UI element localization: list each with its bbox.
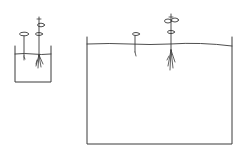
small-water-line — [15, 54, 51, 55]
large-container-walls — [87, 37, 232, 144]
large-container — [87, 14, 232, 144]
large-water-line — [87, 43, 232, 46]
small-container-walls — [15, 46, 51, 82]
small-container-small-seedling — [20, 32, 29, 60]
seedling-diagram — [0, 0, 242, 154]
small-container — [15, 17, 51, 82]
large-container-tall-seedling — [165, 14, 179, 70]
small-container-tall-seedling — [36, 17, 45, 68]
